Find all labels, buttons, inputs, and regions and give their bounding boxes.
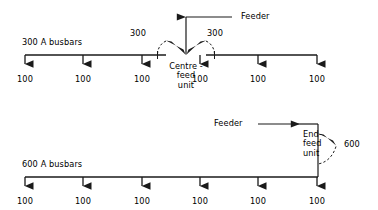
- rating-label-top-left: 300: [130, 29, 146, 39]
- busbar-label-top: 300 A busbars: [22, 38, 82, 48]
- busbar-label-bottom: 600 A busbars: [22, 160, 82, 170]
- end-feed-unit-label-line-3: unit: [303, 149, 337, 158]
- load-label-bottom-6: 100: [309, 197, 325, 207]
- diagram-vector-layer: [0, 0, 378, 210]
- feeder-label-top: Feeder: [241, 12, 270, 22]
- load-label-top-3: 100: [134, 75, 150, 85]
- load-label-top-2: 100: [75, 75, 91, 85]
- load-label-bottom-3: 100: [134, 197, 150, 207]
- load-label-bottom-4: 100: [192, 197, 208, 207]
- load-label-top-5: 100: [250, 75, 266, 85]
- load-label-top-6: 100: [309, 75, 325, 85]
- busbar-distribution-figure: 300 A busbars Feeder 300 300 Centre - fe…: [0, 0, 378, 210]
- load-label-top-4: 100: [192, 75, 208, 85]
- end-feed-diagram: [25, 124, 336, 186]
- load-label-top-1: 100: [17, 75, 33, 85]
- rating-label-bottom-right: 600: [344, 140, 360, 150]
- load-label-bottom-1: 100: [17, 197, 33, 207]
- end-feed-unit-label: End- feed unit: [303, 130, 337, 158]
- feeder-label-bottom: Feeder: [214, 119, 243, 129]
- rating-label-top-right: 300: [207, 29, 223, 39]
- load-label-bottom-5: 100: [250, 197, 266, 207]
- load-label-bottom-2: 100: [75, 197, 91, 207]
- tap-off-arrows-bottom: [25, 177, 317, 186]
